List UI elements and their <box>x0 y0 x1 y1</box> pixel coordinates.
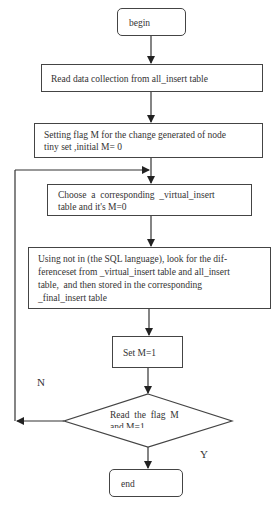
set-m-node: Set M=1 <box>112 336 183 368</box>
setting-flag-line2: tiny set ,initial M= 0 <box>44 141 122 153</box>
using-line4: _final_insert table <box>38 292 107 304</box>
set-m-label: Set M=1 <box>123 347 156 359</box>
choose-table-node: Choose a corresponding _virtual_insert t… <box>47 184 252 216</box>
end-label: end <box>121 478 135 490</box>
read-data-label: Read data collection from all_insert tab… <box>51 73 208 85</box>
using-line1: Using not in (the SQL language), look fo… <box>38 253 227 265</box>
end-node: end <box>109 469 183 497</box>
begin-label: begin <box>129 17 150 29</box>
yes-branch-label: Y <box>200 448 208 460</box>
choose-table-line1: Choose a corresponding _virtual_insert <box>58 189 215 201</box>
no-branch-label: N <box>37 376 45 388</box>
setting-flag-line1: Setting flag M for the change generated … <box>44 129 226 141</box>
decision-line1: Read the flag M <box>110 409 179 421</box>
decision-line2: and M=1 <box>110 421 145 428</box>
using-not-in-node: Using not in (the SQL language), look fo… <box>28 247 271 309</box>
using-line2: ferenceset from _virtual_insert table an… <box>38 266 230 278</box>
choose-table-line2: table and it's M=0 <box>58 201 127 213</box>
using-line3: table, and then stored in the correspond… <box>38 279 202 291</box>
setting-flag-node: Setting flag M for the change generated … <box>34 123 263 158</box>
read-data-node: Read data collection from all_insert tab… <box>41 64 263 92</box>
begin-node: begin <box>117 8 186 36</box>
